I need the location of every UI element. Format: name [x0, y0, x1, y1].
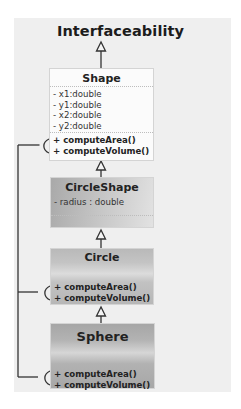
- method: + computeArea(): [51, 282, 153, 293]
- class-sphere[interactable]: Sphere + computeArea() + computeVolume(): [50, 323, 155, 389]
- attribute: - x1:double: [50, 89, 153, 100]
- attributes-compartment: - radius : double: [51, 195, 153, 215]
- attribute: - x2:double: [50, 110, 153, 121]
- attributes-compartment: [51, 346, 154, 368]
- methods-compartment: + computeArea() + computeVolume(): [51, 281, 153, 303]
- method: + computeArea(): [50, 135, 153, 146]
- attribute: - y1:double: [50, 100, 153, 111]
- class-circleshape[interactable]: CircleShape - radius : double: [50, 177, 154, 228]
- attribute: - radius : double: [51, 197, 153, 208]
- method: + computeVolume(): [51, 293, 153, 304]
- method: + computeVolume(): [50, 146, 153, 157]
- methods-compartment: + computeArea() + computeVolume(): [51, 368, 154, 390]
- attributes-compartment: [51, 266, 153, 281]
- class-name: Sphere: [51, 324, 154, 346]
- attribute: - y2:double: [50, 121, 153, 132]
- class-name: Circle: [51, 249, 153, 266]
- class-name: CircleShape: [51, 178, 153, 195]
- class-circle[interactable]: Circle + computeArea() + computeVolume(): [50, 248, 154, 305]
- class-shape[interactable]: Shape - x1:double - y1:double - x2:doubl…: [49, 68, 154, 161]
- method: + computeArea(): [51, 369, 154, 380]
- methods-compartment: [51, 215, 153, 216]
- attributes-compartment: - x1:double - y1:double - x2:double - y2…: [50, 86, 153, 132]
- method: + computeVolume(): [51, 380, 154, 391]
- methods-compartment: + computeArea() + computeVolume(): [50, 132, 153, 156]
- class-name: Shape: [50, 69, 153, 86]
